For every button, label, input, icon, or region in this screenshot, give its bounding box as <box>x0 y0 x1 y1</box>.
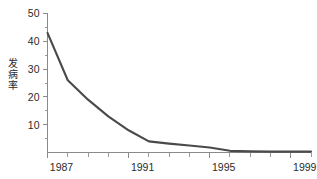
y-tick-label: 10 <box>28 119 40 131</box>
y-tick-label: 40 <box>28 35 40 47</box>
chart-figure: 发病率 1020304050 1987199119951999 <box>0 0 317 179</box>
y-axis-tick-labels: 1020304050 <box>28 7 40 130</box>
x-tick-label: 1999 <box>293 161 317 173</box>
x-tick-label: 1995 <box>212 161 236 173</box>
y-tick-label: 30 <box>28 63 40 75</box>
x-tick-label: 1991 <box>131 161 155 173</box>
y-tick-label: 20 <box>28 91 40 103</box>
data-series-line <box>48 33 312 152</box>
y-axis-major-ticks <box>43 14 48 125</box>
x-tick-label: 1987 <box>50 161 74 173</box>
x-axis-tick-labels: 1987199119951999 <box>50 161 317 173</box>
x-axis-minor-ticks <box>68 153 311 157</box>
y-tick-label: 50 <box>28 7 40 19</box>
line-chart-plot: 1020304050 1987199119951999 <box>0 0 317 179</box>
